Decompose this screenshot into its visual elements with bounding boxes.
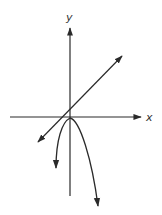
- coordinate-graph: y x: [0, 0, 162, 215]
- parabola-right-branch: [70, 118, 98, 206]
- y-axis-label: y: [65, 11, 73, 24]
- x-axis-label: x: [145, 111, 153, 124]
- parabola-left-branch: [56, 118, 70, 168]
